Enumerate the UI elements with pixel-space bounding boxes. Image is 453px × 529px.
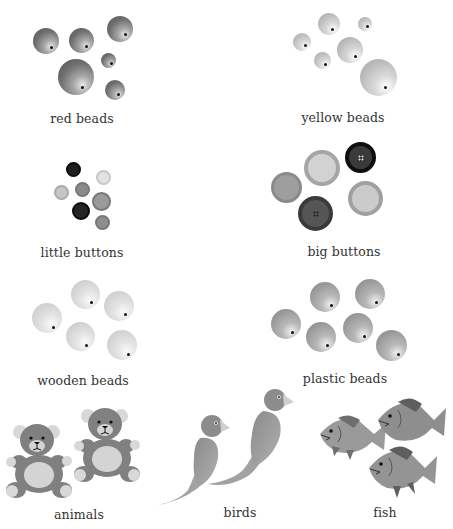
plastic-bead-icon[interactable] [376, 330, 407, 361]
yellow-bead-icon[interactable] [360, 59, 397, 96]
button-icon[interactable] [54, 185, 69, 200]
bird-icon[interactable] [208, 386, 308, 496]
red-bead-icon[interactable] [69, 28, 94, 53]
label-yellow-beads: yellow beads [301, 110, 384, 125]
yellow-bead-icon[interactable] [337, 37, 363, 63]
label-birds: birds [224, 505, 257, 520]
label-animals: animals [54, 507, 104, 522]
yellow-bead-icon[interactable] [318, 13, 340, 35]
button-icon[interactable] [66, 162, 81, 177]
button-icon[interactable] [96, 170, 111, 185]
button-icon[interactable] [348, 181, 383, 216]
red-bead-icon[interactable] [107, 16, 133, 42]
teddy-bear-icon[interactable] [4, 418, 74, 500]
plastic-bead-icon[interactable] [271, 309, 301, 339]
wooden-bead-icon[interactable] [107, 330, 137, 360]
wooden-bead-icon[interactable] [32, 303, 62, 333]
button-icon[interactable] [304, 150, 340, 186]
yellow-bead-icon[interactable] [358, 17, 372, 31]
yellow-bead-icon[interactable] [293, 33, 311, 51]
fish-icon[interactable] [367, 444, 439, 502]
wooden-bead-icon[interactable] [104, 291, 134, 321]
button-icon[interactable] [271, 172, 302, 203]
wooden-bead-icon[interactable] [66, 322, 95, 351]
red-bead-icon[interactable] [101, 53, 116, 68]
plastic-bead-icon[interactable] [343, 313, 373, 343]
plastic-bead-icon[interactable] [310, 282, 340, 312]
button-icon[interactable] [298, 196, 333, 231]
label-fish: fish [373, 505, 397, 520]
button-icon[interactable] [75, 182, 90, 197]
button-icon[interactable] [345, 142, 376, 173]
button-icon[interactable] [72, 202, 90, 220]
button-icon[interactable] [92, 192, 111, 211]
plastic-bead-icon[interactable] [355, 279, 385, 309]
red-bead-icon[interactable] [33, 28, 59, 54]
label-red-beads: red beads [50, 111, 114, 126]
label-little-buttons: little buttons [41, 245, 124, 260]
wooden-bead-icon[interactable] [71, 280, 100, 309]
teddy-bear-icon[interactable] [72, 402, 142, 484]
button-icon[interactable] [95, 215, 110, 230]
label-wooden-beads: wooden beads [37, 373, 129, 388]
label-plastic-beads: plastic beads [303, 371, 387, 386]
label-big-buttons: big buttons [307, 244, 380, 259]
red-bead-icon[interactable] [58, 59, 94, 95]
red-bead-icon[interactable] [105, 80, 125, 100]
yellow-bead-icon[interactable] [314, 52, 331, 69]
plastic-bead-icon[interactable] [306, 322, 336, 352]
